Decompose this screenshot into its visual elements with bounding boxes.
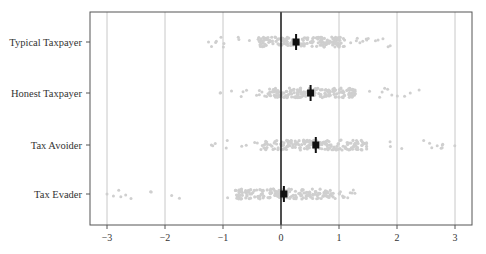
data-point — [318, 188, 321, 191]
data-point — [300, 194, 303, 197]
data-point — [275, 139, 278, 142]
data-point — [276, 42, 279, 45]
data-point — [339, 138, 342, 141]
data-point — [428, 142, 431, 145]
data-point — [253, 195, 256, 198]
data-point — [286, 40, 289, 43]
data-point — [381, 37, 384, 40]
data-point — [170, 194, 173, 197]
data-point — [178, 197, 181, 200]
data-point — [337, 96, 340, 99]
data-point — [368, 90, 371, 93]
data-point — [355, 39, 358, 42]
data-point — [222, 45, 225, 48]
data-point — [422, 139, 425, 142]
data-point — [282, 92, 285, 95]
data-point — [274, 40, 277, 43]
data-point — [240, 95, 243, 98]
data-point — [310, 45, 313, 48]
data-point — [353, 192, 356, 195]
data-point — [207, 41, 210, 44]
data-point — [226, 196, 229, 199]
data-point — [337, 142, 340, 145]
data-point — [259, 43, 262, 46]
data-point — [210, 45, 213, 48]
data-point — [242, 90, 245, 93]
data-point — [396, 95, 399, 98]
data-point — [219, 92, 222, 95]
x-tick-label: 2 — [395, 232, 400, 243]
data-point — [106, 193, 109, 196]
data-point — [314, 193, 317, 196]
data-point — [149, 190, 152, 193]
data-point — [276, 89, 279, 92]
data-point — [403, 95, 406, 98]
data-point — [225, 146, 228, 149]
data-point — [343, 195, 346, 198]
data-point — [269, 94, 272, 97]
data-point — [268, 87, 271, 90]
data-point — [219, 36, 222, 39]
x-tick-label: 1 — [337, 232, 342, 243]
data-point — [240, 187, 243, 190]
data-point — [306, 139, 309, 142]
data-point — [351, 192, 354, 195]
data-point — [290, 95, 293, 98]
data-point — [332, 37, 335, 40]
data-point — [258, 93, 261, 96]
data-point — [302, 139, 305, 142]
data-point — [124, 194, 127, 197]
data-point — [365, 141, 368, 144]
data-point — [230, 90, 233, 93]
data-point — [292, 88, 295, 91]
data-point — [347, 142, 350, 145]
data-point — [261, 144, 264, 147]
data-point — [300, 197, 303, 200]
data-point — [286, 145, 289, 148]
data-point — [210, 144, 213, 147]
data-point — [286, 44, 289, 47]
data-point — [329, 143, 332, 146]
data-point — [236, 196, 239, 199]
data-point — [338, 43, 341, 46]
data-point — [268, 196, 271, 199]
data-point — [282, 144, 285, 147]
data-point — [273, 142, 276, 145]
data-point — [336, 37, 339, 40]
data-point — [274, 193, 277, 196]
data-point — [356, 148, 359, 151]
data-point — [361, 143, 364, 146]
data-point — [273, 147, 276, 150]
x-tick-label: −1 — [218, 232, 229, 243]
data-point — [285, 90, 288, 93]
data-point — [327, 94, 330, 97]
data-point — [288, 196, 291, 199]
data-point — [334, 95, 337, 98]
x-tick-label: −2 — [160, 232, 171, 243]
data-point — [264, 140, 267, 143]
data-point — [317, 36, 320, 39]
y-tick-label: Tax Avoider — [31, 140, 83, 151]
data-point — [441, 143, 444, 146]
data-point — [303, 147, 306, 150]
data-point — [381, 91, 384, 94]
data-point — [305, 197, 308, 200]
data-point — [330, 41, 333, 44]
data-point — [325, 190, 328, 193]
data-point — [441, 146, 444, 149]
data-point — [288, 140, 291, 143]
data-point — [343, 38, 346, 41]
data-point — [327, 140, 330, 143]
data-point — [288, 86, 291, 89]
data-point — [303, 36, 306, 39]
data-point — [324, 89, 327, 92]
data-point — [356, 140, 359, 143]
data-point — [319, 95, 322, 98]
data-point — [320, 39, 323, 42]
data-point — [263, 95, 266, 98]
data-point — [383, 87, 386, 90]
data-point — [343, 45, 346, 48]
data-point — [338, 193, 341, 196]
data-point — [323, 37, 326, 40]
data-point — [333, 87, 336, 90]
